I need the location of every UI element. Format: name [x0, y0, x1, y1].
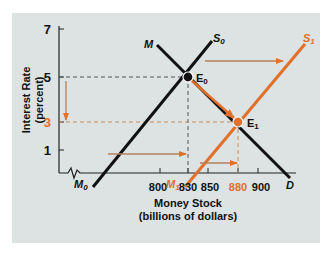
- axes: [59, 26, 296, 178]
- shift-arrows: [66, 61, 283, 163]
- y-tick-7: 7: [44, 22, 51, 37]
- y-tick-1: 1: [44, 143, 51, 158]
- x-axis-title-line1: Money Stock: [154, 197, 223, 209]
- money-market-chart: 7 5 3 1 800 830 850 880 900 Money Stock …: [0, 0, 333, 254]
- x-tick-830: 830: [179, 181, 197, 193]
- x-tick-880: 880: [229, 181, 247, 193]
- label-d: D: [286, 179, 294, 191]
- label-s0: S0: [213, 32, 225, 46]
- label-s1: S1: [303, 32, 315, 46]
- demand-curve: [157, 45, 290, 178]
- y-axis-title-line1: Interest Rate: [20, 67, 32, 134]
- guide-lines: [59, 77, 238, 173]
- x-tick-800: 800: [149, 181, 167, 193]
- x-tick-900: 900: [252, 181, 270, 193]
- label-e0: E0: [196, 72, 208, 86]
- x-axis-title-line2: (billions of dollars): [139, 210, 238, 222]
- supply-curve-s0: [93, 41, 212, 187]
- label-m: M: [144, 38, 154, 50]
- supply-curve-s1: [185, 44, 305, 187]
- equilibrium-e0-point: [183, 72, 193, 82]
- label-m0: M0: [74, 178, 88, 192]
- label-e1: E1: [247, 117, 259, 131]
- axis-break-icon: [59, 168, 296, 178]
- x-tick-850: 850: [201, 181, 219, 193]
- y-axis-title-line2: (percent): [33, 76, 45, 123]
- equilibrium-e1-point: [233, 117, 243, 127]
